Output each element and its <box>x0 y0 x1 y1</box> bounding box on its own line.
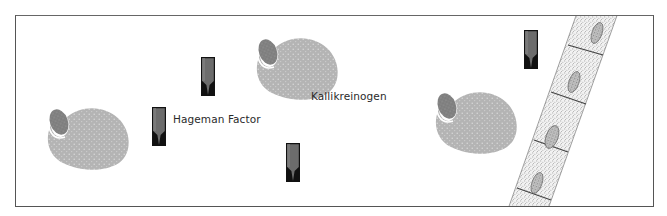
hageman-factor-label: Hageman Factor <box>173 113 261 125</box>
cell-membrane-band <box>507 10 619 212</box>
hageman-factor-marker-2 <box>152 107 166 146</box>
diagram-canvas <box>0 0 667 216</box>
hageman-factor-marker-1 <box>201 57 215 96</box>
prekallikrein-molecule-left <box>46 107 129 170</box>
kallikreinogen-label: Kallikreinogen <box>311 90 387 102</box>
hageman-factor-marker-4 <box>524 30 538 69</box>
hageman-factor-marker-3 <box>286 143 300 182</box>
prekallikrein-molecule-right <box>434 91 517 154</box>
